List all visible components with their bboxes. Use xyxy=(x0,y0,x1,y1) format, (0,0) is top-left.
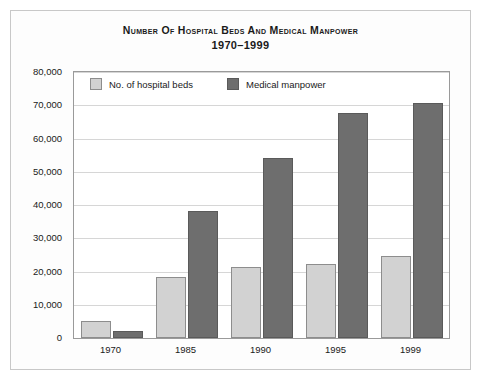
legend-entry: Medical manpower xyxy=(227,78,326,90)
y-tick-label: 20,000 xyxy=(4,265,69,276)
chart-subtitle: 1970–1999 xyxy=(11,38,470,53)
legend-entry: No. of hospital beds xyxy=(90,78,193,90)
bar-1985-beds xyxy=(156,277,186,339)
bar-1995-manpower xyxy=(338,113,368,338)
x-tick-label: 1999 xyxy=(400,344,421,355)
y-tick-label: 80,000 xyxy=(4,66,69,77)
y-tick-label: 70,000 xyxy=(4,99,69,110)
bars-layer xyxy=(74,72,449,338)
y-tick-label: 50,000 xyxy=(4,165,69,176)
plot-area: No. of hospital bedsMedical manpower xyxy=(73,71,450,339)
bar-1970-beds xyxy=(81,321,111,338)
bar-1990-beds xyxy=(231,267,261,338)
x-tick-label: 1970 xyxy=(100,344,121,355)
legend: No. of hospital bedsMedical manpower xyxy=(90,78,326,90)
chart-figure: Number of Hospital Beds and Medical Manp… xyxy=(10,10,471,370)
y-tick-label: 60,000 xyxy=(4,132,69,143)
bar-1999-beds xyxy=(381,256,411,338)
title-block: Number of Hospital Beds and Medical Manp… xyxy=(11,23,470,53)
bar-1970-manpower xyxy=(113,331,143,338)
legend-label: No. of hospital beds xyxy=(109,79,193,90)
y-tick-label: 30,000 xyxy=(4,232,69,243)
y-axis: 010,00020,00030,00040,00050,00060,00070,… xyxy=(11,71,69,339)
bar-1990-manpower xyxy=(263,158,293,338)
y-tick-label: 40,000 xyxy=(4,199,69,210)
legend-swatch-icon xyxy=(90,78,102,90)
bar-1985-manpower xyxy=(188,211,218,338)
x-tick-label: 1990 xyxy=(250,344,271,355)
legend-swatch-icon xyxy=(227,78,239,90)
y-tick-label: 10,000 xyxy=(4,298,69,309)
legend-label: Medical manpower xyxy=(246,79,326,90)
chart-title: Number of Hospital Beds and Medical Manp… xyxy=(11,23,470,38)
x-tick-label: 1985 xyxy=(175,344,196,355)
x-axis: 19701985199019951999 xyxy=(73,344,450,362)
x-tick-label: 1995 xyxy=(325,344,346,355)
bar-1999-manpower xyxy=(413,103,443,338)
bar-1995-beds xyxy=(306,264,336,338)
y-tick-label: 0 xyxy=(4,332,69,343)
